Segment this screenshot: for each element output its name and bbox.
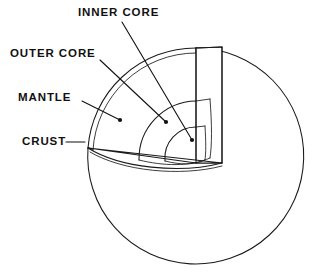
cut-face-vertical: [196, 47, 222, 163]
diagram-canvas: INNER CORE OUTER CORE MANTLE CRUST: [0, 0, 321, 272]
leader-dot-inner-core: [190, 138, 194, 142]
leader-dot-outer-core: [164, 120, 168, 124]
label-mantle: MANTLE: [18, 91, 71, 103]
label-outer-core: OUTER CORE: [10, 47, 96, 59]
leader-dot-mantle: [118, 118, 122, 122]
label-crust: CRUST: [22, 135, 66, 147]
earth-structure-diagram: INNER CORE OUTER CORE MANTLE CRUST: [0, 0, 321, 272]
label-inner-core: INNER CORE: [78, 6, 159, 18]
